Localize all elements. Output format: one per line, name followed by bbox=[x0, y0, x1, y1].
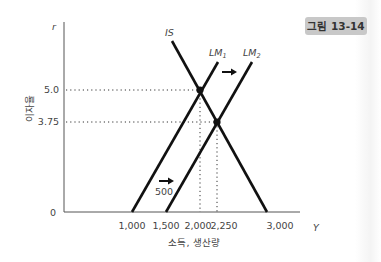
y-axis-symbol: r bbox=[52, 21, 57, 32]
y-axis-title: 이자율 bbox=[24, 95, 35, 122]
lm1-curve bbox=[132, 62, 218, 212]
x-axis-symbol: Y bbox=[313, 222, 320, 233]
x-tick-2250: 2,250 bbox=[210, 220, 237, 231]
lm1-label: LM1 bbox=[209, 47, 227, 60]
x-tick-1500: 1,500 bbox=[152, 220, 179, 231]
y-tick-5: 5.0 bbox=[44, 84, 59, 95]
lm2-curve bbox=[166, 62, 252, 212]
is-lm-diagram: IS LM1 LM2 500 r Y 0 5.0 3.75 1,000 1,50… bbox=[0, 0, 381, 262]
equilibrium-point-2 bbox=[213, 118, 220, 125]
is-curve bbox=[172, 41, 267, 212]
shift-arrow-icon-top bbox=[222, 69, 237, 76]
origin-label: 0 bbox=[50, 207, 56, 218]
x-tick-3000: 3,000 bbox=[266, 220, 293, 231]
x-tick-1000: 1,000 bbox=[118, 220, 145, 231]
x-tick-2000: 2,000 bbox=[184, 220, 211, 231]
equilibrium-point-1 bbox=[196, 86, 203, 93]
shift-arrow-icon-bottom bbox=[159, 178, 174, 185]
lm2-label: LM2 bbox=[243, 47, 261, 60]
shift-amount-label: 500 bbox=[155, 186, 173, 197]
is-label: IS bbox=[165, 27, 174, 38]
y-tick-3-75: 3.75 bbox=[38, 116, 59, 127]
x-axis-title: 소득, 생산량 bbox=[168, 237, 219, 248]
